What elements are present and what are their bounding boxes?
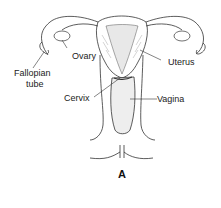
label-vagina: Vagina (157, 94, 184, 104)
label-fallopian-tube-line2: tube (26, 79, 44, 89)
figure-caption: A (118, 168, 126, 180)
ovary-left (54, 31, 70, 41)
label-ovary: Ovary (72, 51, 96, 61)
ovary-right (174, 31, 190, 41)
uterine-cavity (106, 25, 138, 75)
leader-ovary (62, 40, 67, 48)
label-uterus: Uterus (168, 57, 195, 67)
body-contour-right (141, 55, 155, 140)
vagina-outline (111, 77, 135, 134)
label-cervix: Cervix (64, 93, 90, 103)
vulva-left (90, 152, 120, 159)
vulva-right (124, 152, 153, 159)
leader-fallopian (33, 52, 44, 68)
body-contour-left (90, 55, 103, 140)
fallopian-tube-right (146, 16, 204, 54)
female-reproductive-anatomy-diagram (0, 0, 221, 208)
label-fallopian-tube-line1: Fallopian (14, 68, 51, 78)
